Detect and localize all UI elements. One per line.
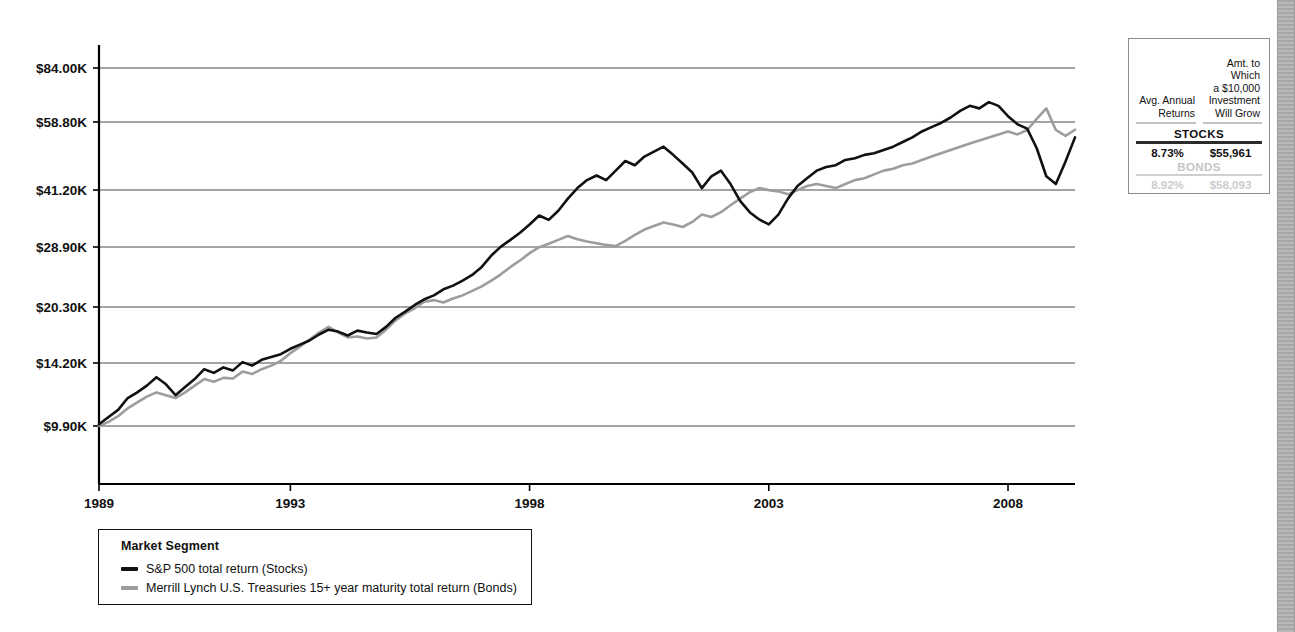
legend-title: Market Segment [121, 539, 531, 553]
summary-row-bonds: 8.92% $58,093 [1136, 179, 1262, 191]
y-tick-label: $41.20K [36, 183, 87, 198]
legend-label-bonds: Merrill Lynch U.S. Treasuries 15+ year m… [146, 581, 517, 595]
x-axis [99, 484, 1075, 491]
x-tick-label: 2003 [754, 496, 785, 511]
legend-label-stocks: S&P 500 total return (Stocks) [146, 562, 308, 576]
y-tick-label: $14.20K [36, 356, 87, 371]
page-scrollbar[interactable] [1277, 0, 1295, 632]
x-tick-label: 2008 [993, 496, 1024, 511]
summary-band-bonds: BONDS [1136, 161, 1262, 173]
summary-divider-stocks [1136, 141, 1262, 144]
header-rule-right [1203, 122, 1263, 125]
y-tick-label: $28.90K [36, 240, 87, 255]
x-tick-label: 1993 [275, 496, 306, 511]
y-tick-label: $20.30K [36, 300, 87, 315]
summary-band-stocks: STOCKS [1136, 128, 1262, 140]
stocks-growth-amount: $55,961 [1199, 147, 1262, 159]
header-line: Avg. Annual [1136, 94, 1195, 106]
summary-table: Avg. Annual Returns Amt. to Which a $10,… [1128, 38, 1270, 194]
legend-item-bonds: Merrill Lynch U.S. Treasuries 15+ year m… [121, 578, 531, 597]
y-tick-label: $84.00K [36, 61, 87, 76]
header-rule-left [1136, 122, 1196, 125]
header-line: Will Grow [1201, 107, 1260, 119]
stocks-series-line [99, 102, 1075, 424]
chart-legend: Market Segment S&P 500 total return (Sto… [98, 529, 532, 605]
x-tick-label: 1989 [84, 496, 114, 511]
bonds-growth-amount: $58,093 [1199, 179, 1262, 191]
header-underline-rules [1136, 120, 1262, 126]
summary-row-stocks: 8.73% $55,961 [1136, 147, 1262, 159]
x-tick-label: 1998 [515, 496, 546, 511]
header-line: Amt. to Which [1201, 57, 1260, 82]
x-axis-tick-labels: 19891993199820032008 [84, 496, 1024, 511]
legend-swatch-stocks [121, 567, 138, 571]
header-line: a $10,000 [1201, 82, 1260, 94]
summary-divider-bonds [1136, 174, 1262, 177]
legend-item-stocks: S&P 500 total return (Stocks) [121, 559, 531, 578]
header-line: Returns [1136, 107, 1195, 119]
summary-header-avg-annual-returns: Avg. Annual Returns [1136, 94, 1201, 119]
stocks-avg-annual-return: 8.73% [1136, 147, 1199, 159]
header-line: Investment [1201, 94, 1260, 106]
y-axis-tick-labels: $84.00K$58.80K$41.20K$28.90K$20.30K$14.2… [36, 61, 87, 434]
summary-header-growth-amount: Amt. to Which a $10,000 Investment Will … [1201, 57, 1262, 119]
y-tick-label: $9.90K [43, 419, 87, 434]
bonds-series-line [99, 108, 1075, 426]
y-tick-label: $58.80K [36, 115, 87, 130]
summary-table-header-row: Avg. Annual Returns Amt. to Which a $10,… [1136, 45, 1262, 119]
bonds-avg-annual-return: 8.92% [1136, 179, 1199, 191]
legend-swatch-bonds [121, 586, 138, 590]
